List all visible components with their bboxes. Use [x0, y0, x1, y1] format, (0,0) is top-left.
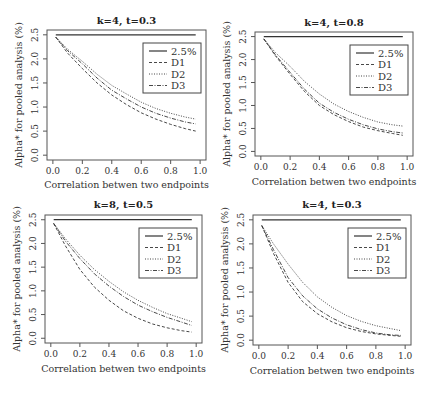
x-tick-label: 0.2 — [281, 351, 295, 361]
legend-label: D3 — [376, 265, 390, 276]
y-tick-label: 1.0 — [30, 100, 40, 115]
legend: 2.5%D1D2D3 — [143, 43, 201, 93]
legend-label: D2 — [378, 71, 392, 82]
chart-panel-4: k=4, t=0.30.00.20.40.60.81.00.00.51.01.5… — [219, 199, 414, 376]
y-tick-label: 1.5 — [236, 261, 246, 276]
chart-panel-1: k=4, t=0.30.00.20.40.60.81.00.00.51.01.5… — [13, 15, 209, 190]
y-axis-label: Alpha* for pooled analysis (%) — [221, 21, 232, 168]
legend: 2.5%D1D2D3 — [139, 228, 197, 278]
x-tick-label: 1.0 — [193, 166, 208, 176]
x-tick-label: 1.0 — [189, 349, 204, 359]
legend-label: 2.5% — [171, 46, 196, 57]
y-axis-label: Alpha* for pooled analysis (%) — [13, 22, 24, 169]
y-tick-label: 0.0 — [238, 144, 248, 159]
x-tick-label: 1.0 — [400, 162, 415, 172]
y-tick-label: 2.5 — [28, 212, 38, 227]
legend-label: 2.5% — [376, 231, 401, 242]
y-tick-label: 2.0 — [238, 52, 248, 67]
legend-label: 2.5% — [378, 48, 403, 59]
y-tick-label: 1.5 — [30, 76, 40, 91]
y-tick-label: 2.5 — [30, 27, 40, 42]
chart-title: k=4, t=0.8 — [304, 17, 364, 29]
chart-panel-3: k=8, t=0.50.00.20.40.60.81.00.00.51.01.5… — [11, 199, 206, 374]
y-tick-label: 1.5 — [238, 75, 248, 90]
x-tick-label: 0.2 — [73, 349, 87, 359]
x-axis-label: Correlation betwen two endpoints — [41, 363, 206, 374]
x-tick-label: 0.2 — [283, 162, 297, 172]
x-axis-label: Correlation betwen two endpoints — [250, 365, 415, 376]
y-tick-label: 1.0 — [28, 283, 38, 298]
y-tick-label: 0.5 — [28, 307, 38, 322]
y-tick-label: 2.0 — [30, 51, 40, 66]
chart-title: k=8, t=0.5 — [94, 199, 154, 211]
legend-label: 2.5% — [167, 231, 192, 242]
legend-label: D3 — [378, 82, 392, 93]
x-tick-label: 0.0 — [46, 166, 61, 176]
legend-label: D2 — [171, 69, 185, 80]
y-tick-label: 2.0 — [28, 236, 38, 251]
y-axis-label: Alpha* for pooled analysis (%) — [219, 207, 230, 354]
y-tick-label: 0.5 — [236, 309, 246, 324]
x-tick-label: 0.4 — [102, 349, 117, 359]
legend-label: D3 — [167, 265, 181, 276]
x-tick-label: 0.8 — [371, 162, 386, 172]
y-axis-label: Alpha* for pooled analysis (%) — [11, 206, 22, 353]
x-tick-label: 0.6 — [131, 349, 146, 359]
x-tick-label: 0.8 — [164, 166, 179, 176]
legend: 2.5%D1D2D3 — [348, 228, 406, 278]
y-tick-label: 2.5 — [238, 29, 248, 44]
x-tick-label: 0.8 — [369, 351, 384, 361]
x-tick-label: 0.4 — [310, 351, 325, 361]
y-tick-label: 1.0 — [236, 285, 246, 300]
figure: k=4, t=0.30.00.20.40.60.81.00.00.51.01.5… — [0, 0, 431, 397]
y-tick-label: 0.5 — [238, 121, 248, 136]
x-tick-label: 0.6 — [339, 351, 354, 361]
x-tick-label: 0.4 — [105, 166, 120, 176]
y-tick-label: 0.0 — [28, 331, 38, 346]
legend-label: D1 — [378, 59, 392, 70]
y-tick-label: 1.5 — [28, 260, 38, 275]
y-tick-label: 0.5 — [30, 124, 40, 139]
x-tick-label: 0.0 — [254, 162, 269, 172]
legend-label: D2 — [167, 254, 181, 265]
y-tick-label: 1.0 — [238, 98, 248, 113]
x-axis-label: Correlation betwen two endpoints — [252, 176, 417, 187]
chart-panel-2: k=4, t=0.80.00.20.40.60.81.00.00.51.01.5… — [221, 17, 416, 187]
y-tick-label: 2.0 — [236, 236, 246, 251]
legend-label: D1 — [376, 242, 390, 253]
y-tick-label: 2.5 — [236, 212, 246, 227]
x-tick-label: 0.6 — [134, 166, 149, 176]
x-tick-label: 0.2 — [75, 166, 89, 176]
legend-label: D3 — [171, 80, 185, 91]
chart-title: k=4, t=0.3 — [302, 199, 362, 211]
x-tick-label: 0.8 — [160, 349, 175, 359]
legend-label: D2 — [376, 254, 390, 265]
y-tick-label: 0.0 — [30, 148, 40, 163]
x-tick-label: 1.0 — [398, 351, 413, 361]
x-tick-label: 0.4 — [312, 162, 327, 172]
chart-title: k=4, t=0.3 — [97, 15, 157, 27]
x-tick-label: 0.0 — [44, 349, 59, 359]
legend-label: D1 — [171, 57, 185, 68]
x-tick-label: 0.0 — [252, 351, 267, 361]
x-axis-label: Correlation betwen two endpoints — [44, 179, 209, 190]
y-tick-label: 0.0 — [236, 333, 246, 348]
legend: 2.5%D1D2D3 — [350, 45, 408, 95]
legend-label: D1 — [167, 242, 181, 253]
x-tick-label: 0.6 — [341, 162, 356, 172]
